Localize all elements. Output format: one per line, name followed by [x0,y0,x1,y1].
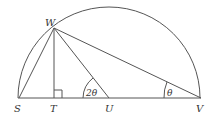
label-W: W [45,17,56,28]
label-V: V [196,103,205,114]
segment-SW [19,28,54,98]
right-angle-marker [54,90,62,98]
angle-label-V: θ [167,88,173,98]
segment-WU [54,28,109,98]
label-U: U [105,103,114,114]
semicircle-geometry-diagram: W S T U V 2θ θ [0,0,212,115]
label-S: S [14,103,21,114]
label-T: T [50,103,58,114]
segment-WV [54,28,201,98]
angle-label-U: 2θ [85,88,98,98]
